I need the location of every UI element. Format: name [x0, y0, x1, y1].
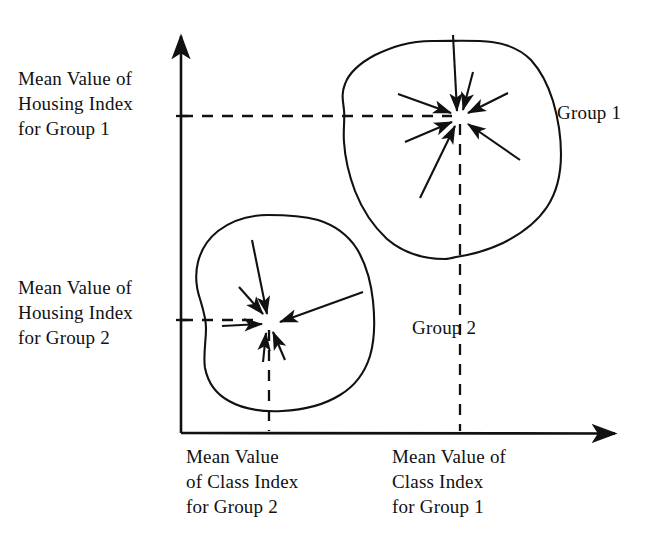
axes — [181, 36, 615, 434]
x-axis — [181, 433, 615, 434]
arrow-g2-upper-left — [239, 287, 263, 314]
arrow-g2-bottom — [263, 333, 266, 362]
arrow-g1-lower-right — [468, 124, 520, 160]
arrow-g1-top — [453, 35, 457, 111]
arrow-g1-top-right — [463, 72, 473, 110]
arrow-g1-upper-right — [468, 93, 508, 113]
group-1-label: Group 1 — [557, 100, 621, 125]
arrow-g2-right — [280, 292, 363, 322]
group-2-label: Group 2 — [412, 315, 476, 340]
projection-lines — [182, 116, 460, 431]
arrow-g2-left — [222, 324, 262, 326]
arrow-g1-bottom-left — [420, 126, 455, 198]
x-axis-label-group-2: Mean Value of Class Index for Group 2 — [186, 444, 346, 519]
y-axis-label-group-2: Mean Value of Housing Index for Group 2 — [18, 275, 178, 350]
arrow-g1-upper-left — [398, 94, 451, 113]
x-axis-label-group-1: Mean Value of Class Index for Group 1 — [392, 444, 562, 519]
group-1-cluster-outline — [343, 41, 561, 259]
group-2-arrows — [222, 240, 363, 362]
cluster-centroid-diagram: Mean Value of Housing Index for Group 1 … — [0, 0, 665, 539]
group-2-cluster-outline — [196, 215, 374, 411]
arrow-g1-lower-left — [405, 122, 452, 142]
arrow-g2-bottom-right — [273, 332, 285, 360]
y-axis-label-group-1: Mean Value of Housing Index for Group 1 — [18, 66, 178, 141]
